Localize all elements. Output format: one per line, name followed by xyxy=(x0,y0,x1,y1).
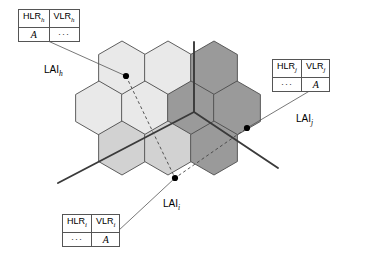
table-row: ··· A xyxy=(273,77,330,91)
dot-i-marker xyxy=(172,175,178,181)
lai-label-h: LAIh xyxy=(44,64,63,78)
table-row: ··· A xyxy=(63,232,120,246)
hlr-vlr-table-i: HLRi VLRi ··· A xyxy=(62,214,120,247)
cell-hlr-value: ··· xyxy=(63,232,92,246)
hlr-vlr-table-j: HLRj VLRj ··· A xyxy=(272,59,330,92)
header-vlr: VLRj xyxy=(301,60,329,78)
table-header-row: HLRi VLRi xyxy=(63,215,120,233)
cell-hlr-value: A xyxy=(19,27,50,41)
cell-vlr-value: A xyxy=(301,77,329,91)
lai-label-j: LAIj xyxy=(296,113,313,127)
cell-vlr-value: A xyxy=(91,232,119,246)
table-header-row: HLRh VLRh xyxy=(19,10,80,28)
cell-hlr-value: ··· xyxy=(273,77,302,91)
table-row: A ··· xyxy=(19,27,80,41)
header-vlr: VLRi xyxy=(91,215,119,233)
table-header-row: HLRj VLRj xyxy=(273,60,330,78)
mobile-position-in-lai-h xyxy=(123,73,129,79)
hlr-vlr-table-h: HLRh VLRh A ··· xyxy=(18,9,80,42)
mobile-position-in-lai-j xyxy=(244,125,250,131)
mobile-position-in-lai-i xyxy=(172,175,178,181)
header-hlr: HLRh xyxy=(19,10,50,28)
lai-label-i: LAIi xyxy=(163,198,180,212)
header-hlr: HLRj xyxy=(273,60,302,78)
cell-vlr-value: ··· xyxy=(49,27,79,41)
header-vlr: VLRh xyxy=(49,10,79,28)
hexagon-layer xyxy=(76,41,261,175)
dot-j-marker xyxy=(244,125,250,131)
header-hlr: HLRi xyxy=(63,215,92,233)
dot-h-marker xyxy=(123,73,129,79)
diagram-canvas: HLRh VLRh A ··· HLRj VLRj ··· A HLRi VLR… xyxy=(0,0,367,256)
